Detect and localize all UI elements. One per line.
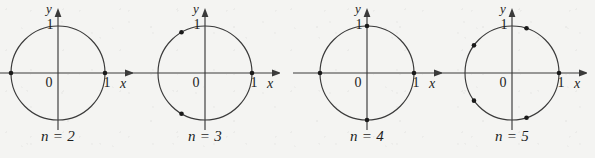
root-of-unity-dot-1: [524, 26, 529, 31]
y-unit-label-1: 1: [501, 17, 508, 32]
root-of-unity-dot-1: [9, 71, 14, 76]
x-unit-label-1: 1: [104, 75, 111, 90]
root-of-unity-dot-2: [179, 111, 184, 116]
y-axis-arrowhead: [202, 8, 209, 17]
roots-of-unity-panel-n5: 011xyn = 5: [437, 0, 587, 158]
figure-root: 011xyn = 2011xyn = 3011xyn = 4011xyn = 5: [0, 0, 595, 158]
roots-of-unity-panel-n4: 011xyn = 4: [292, 0, 442, 158]
y-unit-label-1: 1: [356, 17, 363, 32]
x-axis-name: x: [119, 76, 127, 91]
root-of-unity-dot-0: [412, 71, 417, 76]
x-unit-label-1: 1: [558, 75, 565, 90]
y-unit-label-1: 1: [47, 17, 54, 32]
x-axis-name: x: [428, 76, 436, 91]
y-axis-name: y: [498, 1, 506, 16]
origin-label-0: 0: [193, 75, 200, 90]
panel-caption: n = 2: [0, 128, 133, 145]
root-of-unity-dot-2: [472, 43, 477, 48]
root-of-unity-dot-1: [365, 24, 370, 29]
origin-label-0: 0: [46, 75, 53, 90]
x-axis-name: x: [573, 76, 581, 91]
roots-of-unity-panel-n3: 011xyn = 3: [130, 0, 280, 158]
panel-caption: n = 3: [130, 128, 280, 145]
y-axis-arrowhead: [364, 8, 371, 17]
roots-of-unity-panel-n2: 011xyn = 2: [0, 0, 133, 158]
panel-caption: n = 4: [292, 128, 442, 145]
y-axis-arrowhead: [509, 8, 516, 17]
root-of-unity-dot-1: [179, 30, 184, 35]
root-of-unity-dot-4: [524, 115, 529, 120]
y-unit-label-1: 1: [194, 17, 201, 32]
x-unit-label-1: 1: [413, 75, 420, 90]
root-of-unity-dot-3: [365, 118, 370, 123]
origin-label-0: 0: [500, 75, 507, 90]
x-axis-name: x: [266, 76, 274, 91]
root-of-unity-dot-0: [103, 71, 108, 76]
x-axis-arrowhead: [579, 70, 587, 77]
root-of-unity-dot-0: [250, 71, 255, 76]
y-axis-name: y: [44, 1, 52, 16]
y-axis-name: y: [191, 1, 199, 16]
y-axis-name: y: [353, 1, 361, 16]
root-of-unity-dot-3: [472, 98, 477, 103]
root-of-unity-dot-0: [557, 71, 562, 76]
x-axis-arrowhead: [272, 70, 280, 77]
root-of-unity-dot-2: [318, 71, 323, 76]
x-unit-label-1: 1: [251, 75, 258, 90]
y-axis-arrowhead: [55, 8, 62, 17]
panel-caption: n = 5: [437, 128, 587, 145]
origin-label-0: 0: [355, 75, 362, 90]
